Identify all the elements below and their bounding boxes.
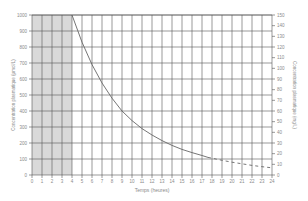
y-axis-right: 0102030405060708090100110120130140150 [272, 13, 285, 178]
line-chart: 01002003004005006007008009001000 0102030… [0, 0, 308, 201]
y-tick-label: 200 [19, 141, 27, 146]
x-tick-label: 15 [179, 179, 185, 184]
y-right-tick-label: 60 [277, 109, 283, 114]
x-tick-label: 20 [229, 179, 235, 184]
y-tick-label: 900 [19, 29, 27, 34]
y-right-tick-label: 110 [277, 55, 285, 60]
x-tick-label: 1 [41, 179, 44, 184]
x-tick-label: 19 [219, 179, 225, 184]
y-right-tick-label: 90 [277, 77, 283, 82]
y-tick-label: 500 [19, 93, 27, 98]
y-tick-label: 1000 [17, 13, 28, 18]
y-tick-label: 700 [19, 61, 27, 66]
x-tick-label: 17 [199, 179, 205, 184]
y-right-tick-label: 10 [277, 162, 283, 167]
y-right-tick-label: 140 [277, 23, 285, 28]
x-axis: 0123456789101112131415161718192021222324 [31, 175, 275, 184]
y-axis-label-right: Concentration plasmatique (mg/L) [292, 61, 297, 129]
y-tick-label: 800 [19, 45, 27, 50]
x-tick-label: 6 [91, 179, 94, 184]
chart: 01002003004005006007008009001000 0102030… [0, 0, 308, 201]
x-tick-label: 4 [71, 179, 74, 184]
y-right-tick-label: 50 [277, 119, 283, 124]
y-right-tick-label: 130 [277, 34, 285, 39]
x-tick-label: 5 [81, 179, 84, 184]
x-tick-label: 14 [169, 179, 175, 184]
y-axis-label-left: Concentration plasmatique (µmol/L) [11, 59, 16, 131]
x-tick-label: 24 [269, 179, 275, 184]
y-right-tick-label: 120 [277, 45, 285, 50]
y-tick-label: 400 [19, 109, 27, 114]
y-tick-label: 0 [24, 173, 27, 178]
x-tick-label: 12 [149, 179, 155, 184]
x-axis-label: Temps (heures) [135, 187, 170, 193]
y-right-tick-label: 150 [277, 13, 285, 18]
x-tick-label: 11 [140, 179, 145, 184]
x-tick-label: 3 [61, 179, 64, 184]
y-tick-label: 600 [19, 77, 27, 82]
x-tick-label: 0 [31, 179, 34, 184]
x-tick-label: 21 [239, 179, 245, 184]
x-tick-label: 10 [129, 179, 135, 184]
y-right-tick-label: 20 [277, 151, 283, 156]
x-tick-label: 2 [51, 179, 54, 184]
y-right-tick-label: 70 [277, 98, 283, 103]
y-right-tick-label: 100 [277, 66, 285, 71]
y-right-tick-label: 80 [277, 87, 283, 92]
x-tick-label: 9 [121, 179, 124, 184]
curve-measured [72, 15, 208, 157]
x-tick-label: 8 [111, 179, 114, 184]
x-tick-label: 22 [249, 179, 255, 184]
x-tick-label: 23 [259, 179, 265, 184]
y-tick-label: 100 [19, 157, 27, 162]
y-right-tick-label: 40 [277, 130, 283, 135]
x-tick-label: 13 [159, 179, 165, 184]
y-axis-left: 01002003004005006007008009001000 [17, 13, 32, 178]
x-tick-label: 7 [101, 179, 104, 184]
x-tick-label: 18 [209, 179, 215, 184]
y-right-tick-label: 30 [277, 141, 283, 146]
y-right-tick-label: 0 [277, 173, 280, 178]
x-tick-label: 16 [189, 179, 195, 184]
y-tick-label: 300 [19, 125, 27, 130]
